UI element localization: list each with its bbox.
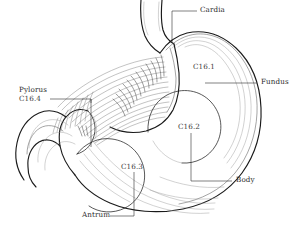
label-body: Body — [236, 176, 255, 185]
stomach-outer-wall — [75, 32, 261, 212]
interior-contour-lines — [80, 140, 224, 213]
lesser-curvature — [110, 44, 179, 132]
gastric-rugae — [53, 55, 169, 145]
region-code-antrum: C16.3 — [121, 163, 143, 172]
label-cardia: Cardia — [200, 6, 225, 15]
stomach-diagram: Cardia Fundus Body Antrum Pylorus C16.4 … — [0, 0, 292, 227]
region-code-fundus: C16.1 — [193, 63, 215, 72]
stomach-illustration — [0, 0, 292, 227]
label-pylorus-code: C16.4 — [19, 95, 41, 104]
pylorus-duodenum — [16, 110, 97, 187]
leader-body — [191, 133, 232, 181]
label-fundus: Fundus — [261, 78, 289, 87]
region-boundary-arcs — [77, 91, 221, 212]
label-antrum: Antrum — [82, 211, 110, 220]
esophagus-group — [141, 0, 174, 53]
region-code-body: C16.2 — [178, 123, 200, 132]
